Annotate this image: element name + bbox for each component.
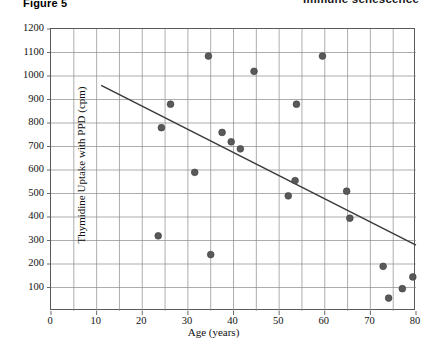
data-layer <box>51 29 416 311</box>
y-tick-label: 900 <box>2 93 44 104</box>
y-tick-label: 500 <box>2 187 44 198</box>
data-point <box>285 192 292 199</box>
data-point <box>219 129 226 136</box>
y-tick-label: 700 <box>2 140 44 151</box>
trend-line <box>101 85 416 245</box>
y-tick-label: 200 <box>2 257 44 268</box>
data-point <box>343 188 350 195</box>
x-tick-label: 10 <box>76 315 116 326</box>
y-tick-label: 1200 <box>2 22 44 33</box>
data-point <box>228 138 235 145</box>
data-point <box>251 68 258 75</box>
y-tick-label: 1000 <box>2 69 44 80</box>
data-point <box>380 263 387 270</box>
data-point <box>399 285 406 292</box>
data-point <box>155 232 162 239</box>
y-tick-label: 600 <box>2 163 44 174</box>
x-tick-label: 0 <box>30 315 70 326</box>
plot-area: Thymidine Uptake with PPD (cpm) <box>50 28 415 310</box>
data-point <box>292 177 299 184</box>
x-tick-label: 70 <box>349 315 389 326</box>
data-point <box>409 274 416 281</box>
data-point <box>293 101 300 108</box>
x-tick-label: 60 <box>304 315 344 326</box>
y-tick-label: 300 <box>2 234 44 245</box>
y-tick-label: 800 <box>2 116 44 127</box>
x-tick-label: 50 <box>258 315 298 326</box>
y-tick-label: 400 <box>2 210 44 221</box>
x-tick-label: 80 <box>395 315 427 326</box>
data-point <box>167 101 174 108</box>
scatter-chart-figure: Thymidine Uptake with PPD (cpm) Age (yea… <box>0 0 427 342</box>
y-tick-label: 100 <box>2 281 44 292</box>
data-point <box>319 53 326 60</box>
x-tick-label: 40 <box>213 315 253 326</box>
x-tick-label: 20 <box>121 315 161 326</box>
data-point <box>205 53 212 60</box>
data-point <box>158 124 165 131</box>
data-point <box>191 169 198 176</box>
x-axis-title: Age (years) <box>0 326 427 338</box>
data-point <box>207 251 214 258</box>
data-point <box>237 145 244 152</box>
x-tick-label: 30 <box>167 315 207 326</box>
data-point <box>346 215 353 222</box>
y-axis-title: Thymidine Uptake with PPD (cpm) <box>75 65 87 265</box>
y-tick-label: 1100 <box>2 46 44 57</box>
data-point <box>385 295 392 302</box>
